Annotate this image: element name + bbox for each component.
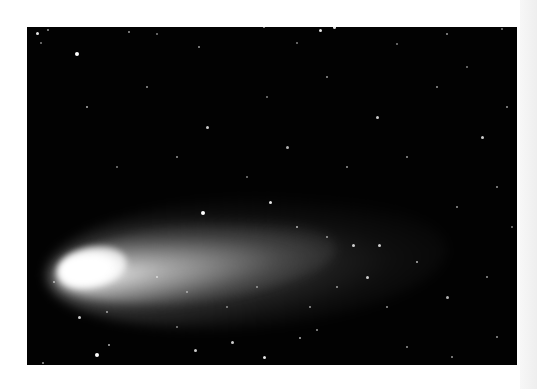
star — [266, 96, 268, 98]
star — [506, 106, 508, 108]
star — [53, 281, 55, 283]
star — [296, 42, 298, 44]
star — [201, 211, 205, 215]
star — [176, 326, 178, 328]
star — [406, 156, 408, 158]
star — [286, 146, 289, 149]
star — [466, 66, 468, 68]
star — [299, 337, 301, 339]
star — [263, 356, 266, 359]
star — [416, 261, 418, 263]
star — [128, 31, 130, 33]
star — [231, 341, 234, 344]
star — [333, 27, 336, 29]
star — [481, 136, 484, 139]
star — [496, 336, 498, 338]
star — [263, 27, 265, 28]
star — [501, 28, 503, 30]
star — [316, 329, 318, 331]
star — [436, 86, 438, 88]
star — [246, 176, 248, 178]
star — [106, 311, 108, 313]
comet-photo — [27, 27, 517, 365]
star — [352, 244, 355, 247]
star — [446, 33, 448, 35]
star — [486, 276, 488, 278]
star — [386, 306, 388, 308]
star — [451, 356, 453, 358]
star — [319, 29, 322, 32]
star — [146, 86, 148, 88]
star — [47, 29, 49, 31]
star — [194, 349, 197, 352]
star — [40, 42, 42, 44]
star — [206, 126, 209, 129]
star — [376, 116, 379, 119]
star — [446, 296, 449, 299]
star — [42, 362, 44, 364]
star — [78, 316, 81, 319]
star — [95, 353, 99, 357]
star — [326, 236, 328, 238]
star — [366, 276, 369, 279]
star — [116, 166, 118, 168]
star — [296, 226, 298, 228]
star — [226, 306, 228, 308]
star — [156, 276, 158, 278]
star — [378, 244, 381, 247]
star — [269, 201, 272, 204]
star — [108, 344, 110, 346]
star — [186, 291, 188, 293]
star — [256, 286, 258, 288]
star — [456, 206, 458, 208]
star — [346, 166, 348, 168]
star — [156, 33, 158, 35]
star — [198, 46, 200, 48]
star — [309, 306, 311, 308]
star — [86, 106, 88, 108]
star — [176, 156, 178, 158]
star — [396, 43, 398, 45]
star — [511, 226, 513, 228]
star — [336, 286, 338, 288]
star — [326, 76, 328, 78]
star — [36, 32, 39, 35]
star — [496, 186, 498, 188]
star — [75, 52, 79, 56]
star — [406, 346, 408, 348]
page-edge-shadow — [520, 0, 537, 389]
